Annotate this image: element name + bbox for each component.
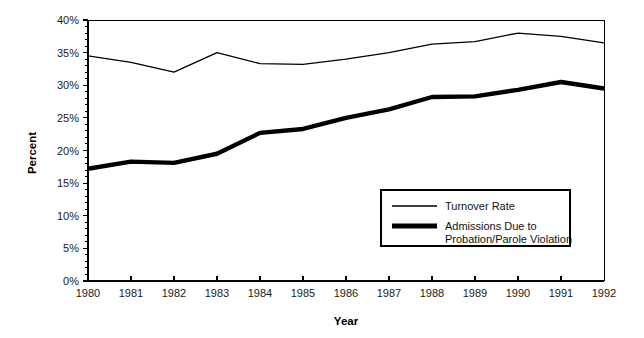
x-tick-label: 1990 [506, 287, 530, 299]
line-chart: 0%5%10%15%20%25%30%35%40% 19801981198219… [0, 0, 644, 338]
y-axis-tick-labels: 0%5%10%15%20%25%30%35%40% [57, 14, 79, 287]
y-tick-label: 25% [57, 112, 79, 124]
y-tick-label: 35% [57, 47, 79, 59]
x-tick-label: 1991 [549, 287, 573, 299]
x-axis: 1980198119821983198419851986198719881989… [76, 276, 616, 299]
x-tick-label: 1985 [291, 287, 315, 299]
legend-label-turnover-rate: Turnover Rate [445, 200, 515, 212]
x-tick-label: 1980 [76, 287, 100, 299]
x-axis-tick-labels: 1980198119821983198419851986198719881989… [76, 287, 616, 299]
x-axis-title: Year [334, 315, 359, 327]
y-tick-label: 15% [57, 177, 79, 189]
legend-label-admissions-line2: Probation/Parole Violation [445, 233, 572, 245]
y-tick-label: 30% [57, 79, 79, 91]
x-tick-label: 1982 [162, 287, 186, 299]
x-tick-label: 1981 [119, 287, 143, 299]
y-axis-title: Percent [26, 132, 38, 174]
x-tick-label: 1986 [334, 287, 358, 299]
y-tick-label: 20% [57, 145, 79, 157]
x-tick-label: 1984 [248, 287, 272, 299]
y-tick-label: 40% [57, 14, 79, 26]
x-tick-label: 1987 [377, 287, 401, 299]
y-axis: 0%5%10%15%20%25%30%35%40% [57, 14, 88, 287]
y-axis-ticks [83, 20, 88, 281]
series-group [88, 33, 604, 169]
y-tick-label: 10% [57, 210, 79, 222]
chart-legend: Turnover Rate Admissions Due to Probatio… [381, 190, 572, 246]
x-tick-label: 1988 [420, 287, 444, 299]
x-axis-ticks [131, 276, 561, 281]
chart-container: 0%5%10%15%20%25%30%35%40% 19801981198219… [0, 0, 644, 338]
y-tick-label: 0% [63, 275, 79, 287]
series-admissions-line [88, 82, 604, 169]
legend-label-admissions-line1: Admissions Due to [445, 220, 537, 232]
x-tick-label: 1989 [463, 287, 487, 299]
y-tick-label: 5% [63, 242, 79, 254]
x-tick-label: 1983 [205, 287, 229, 299]
series-turnover-rate-line [88, 33, 604, 72]
x-tick-label: 1992 [592, 287, 616, 299]
